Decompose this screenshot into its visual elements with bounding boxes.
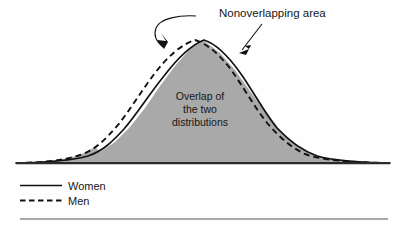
- legend-label-women: Women: [68, 180, 106, 192]
- nonoverlapping-leader-straight: [242, 24, 262, 50]
- nonoverlapping-arrowhead-left: [157, 33, 168, 49]
- overlap-label-line-3: distributions: [172, 116, 228, 128]
- overlap-label-line-2: the two: [183, 103, 217, 115]
- nonoverlapping-area-label: Nonoverlapping area: [219, 7, 326, 19]
- legend: Women Men: [20, 180, 106, 207]
- legend-item-women: Women: [20, 180, 106, 192]
- distribution-overlap-figure: Nonoverlapping area Overlap of the two d…: [0, 0, 400, 227]
- legend-label-men: Men: [68, 195, 89, 207]
- overlap-label-line-1: Overlap of: [176, 90, 225, 102]
- legend-item-men: Men: [20, 195, 89, 207]
